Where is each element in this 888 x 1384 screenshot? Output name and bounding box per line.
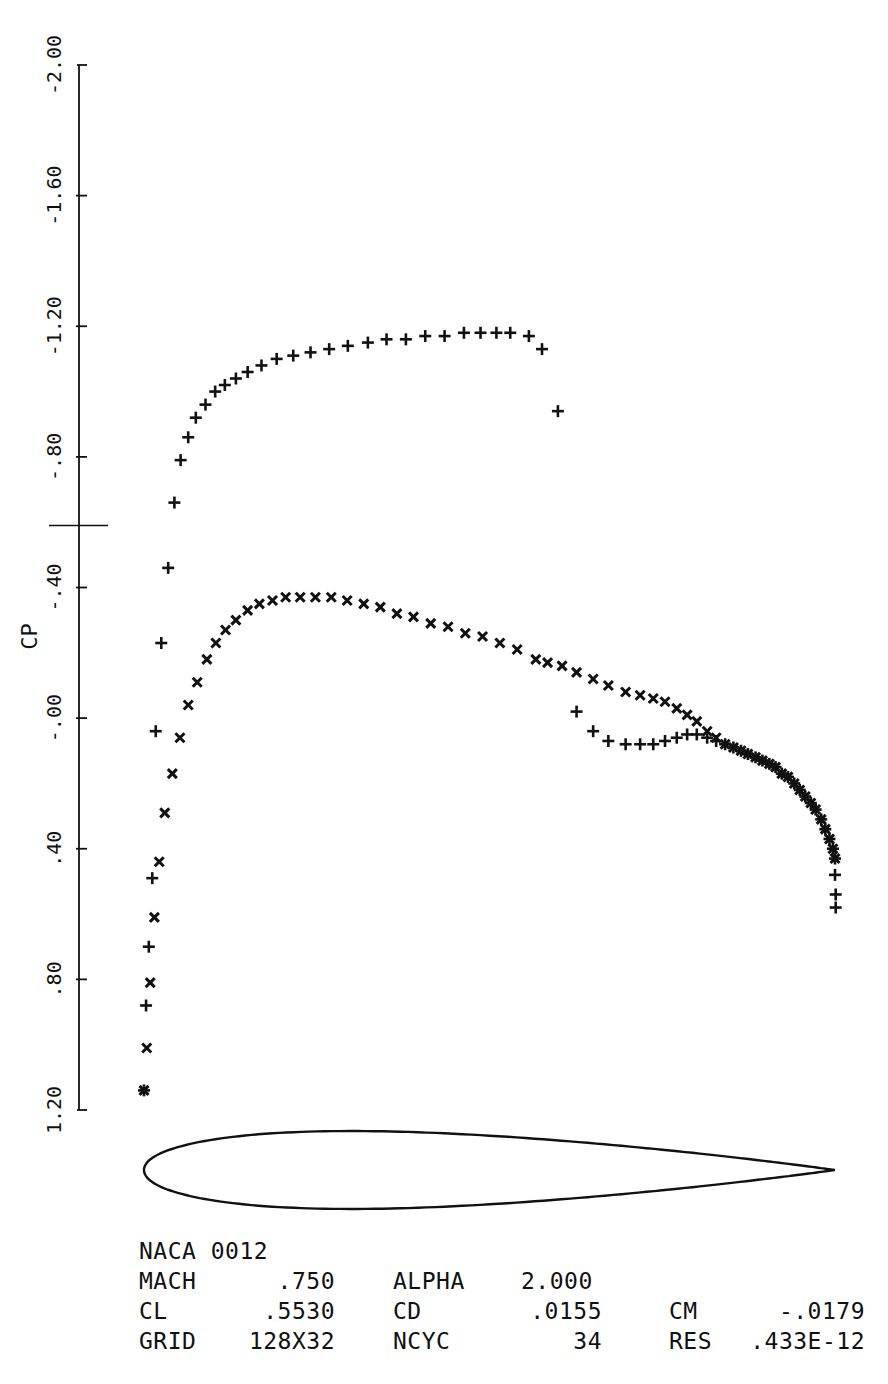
cp-axis: -2.00-1.60-1.20-.80-.40-.00.40.801.20 bbox=[42, 35, 87, 1134]
grid-value: 128X32 bbox=[235, 1326, 335, 1356]
info-row-1: MACH .750 ALPHA 2.000 bbox=[139, 1266, 196, 1296]
ncyc-label: NCYC bbox=[393, 1326, 450, 1356]
info-row-2: CL .5530 CD .0155 CM -.0179 bbox=[139, 1296, 196, 1326]
alpha-label: ALPHA bbox=[393, 1266, 465, 1296]
y-tick-label: -.00 bbox=[42, 694, 66, 742]
y-tick-label: 1.20 bbox=[42, 1086, 66, 1134]
y-tick-label: .40 bbox=[42, 831, 66, 867]
y-tick-label: -.80 bbox=[42, 433, 66, 481]
svg-text:CP: CP bbox=[17, 623, 42, 650]
y-axis-label: CP bbox=[17, 623, 42, 650]
upper-surface-points bbox=[138, 327, 842, 1097]
airfoil-outline bbox=[144, 1131, 835, 1209]
ncyc-value: 34 bbox=[509, 1326, 602, 1356]
airfoil-name: NACA 0012 bbox=[139, 1236, 268, 1266]
lower-surface-points bbox=[140, 593, 840, 1095]
alpha-value: 2.000 bbox=[521, 1266, 593, 1296]
cp-plot: -2.00-1.60-1.20-.80-.40-.00.40.801.20 CP bbox=[0, 0, 888, 1230]
grid-label: GRID bbox=[139, 1326, 196, 1356]
mach-label: MACH bbox=[139, 1266, 196, 1296]
cm-label: CM bbox=[669, 1296, 698, 1326]
run-summary: NACA 0012 MACH .750 ALPHA 2.000 CL .5530… bbox=[139, 1236, 196, 1356]
res-label: RES bbox=[669, 1326, 712, 1356]
cl-label: CL bbox=[139, 1296, 168, 1326]
y-tick-label: -1.20 bbox=[42, 296, 66, 356]
y-tick-label: -.40 bbox=[42, 563, 66, 611]
info-row-3: GRID 128X32 NCYC 34 RES .433E-12 bbox=[139, 1326, 196, 1356]
res-value: .433E-12 bbox=[729, 1326, 865, 1356]
y-tick-label: .80 bbox=[42, 961, 66, 997]
y-tick-label: -1.60 bbox=[42, 166, 66, 226]
y-tick-label: -2.00 bbox=[42, 35, 66, 95]
cm-value: -.0179 bbox=[739, 1296, 865, 1326]
airfoil-name-row: NACA 0012 bbox=[139, 1236, 196, 1266]
cl-value: .5530 bbox=[254, 1296, 335, 1326]
cd-label: CD bbox=[393, 1296, 422, 1326]
mach-value: .750 bbox=[254, 1266, 335, 1296]
cd-value: .0155 bbox=[509, 1296, 602, 1326]
